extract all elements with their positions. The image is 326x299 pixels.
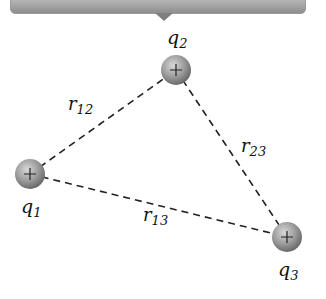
label-q2: q2	[167, 26, 187, 51]
label-q1: q1	[21, 195, 41, 220]
label-q3: q3	[278, 258, 298, 283]
charge-q3	[272, 222, 302, 252]
line-r12	[30, 70, 176, 174]
charge-diagram: q2 q1 q3 r12 r23 r13	[0, 0, 326, 299]
diagram-canvas: q2 q1 q3 r12 r23 r13	[0, 0, 326, 299]
charge-q2	[161, 55, 191, 85]
label-r23: r23	[241, 135, 266, 159]
charge-q1	[15, 159, 45, 189]
line-r23	[176, 70, 287, 237]
label-r12: r12	[68, 93, 93, 117]
